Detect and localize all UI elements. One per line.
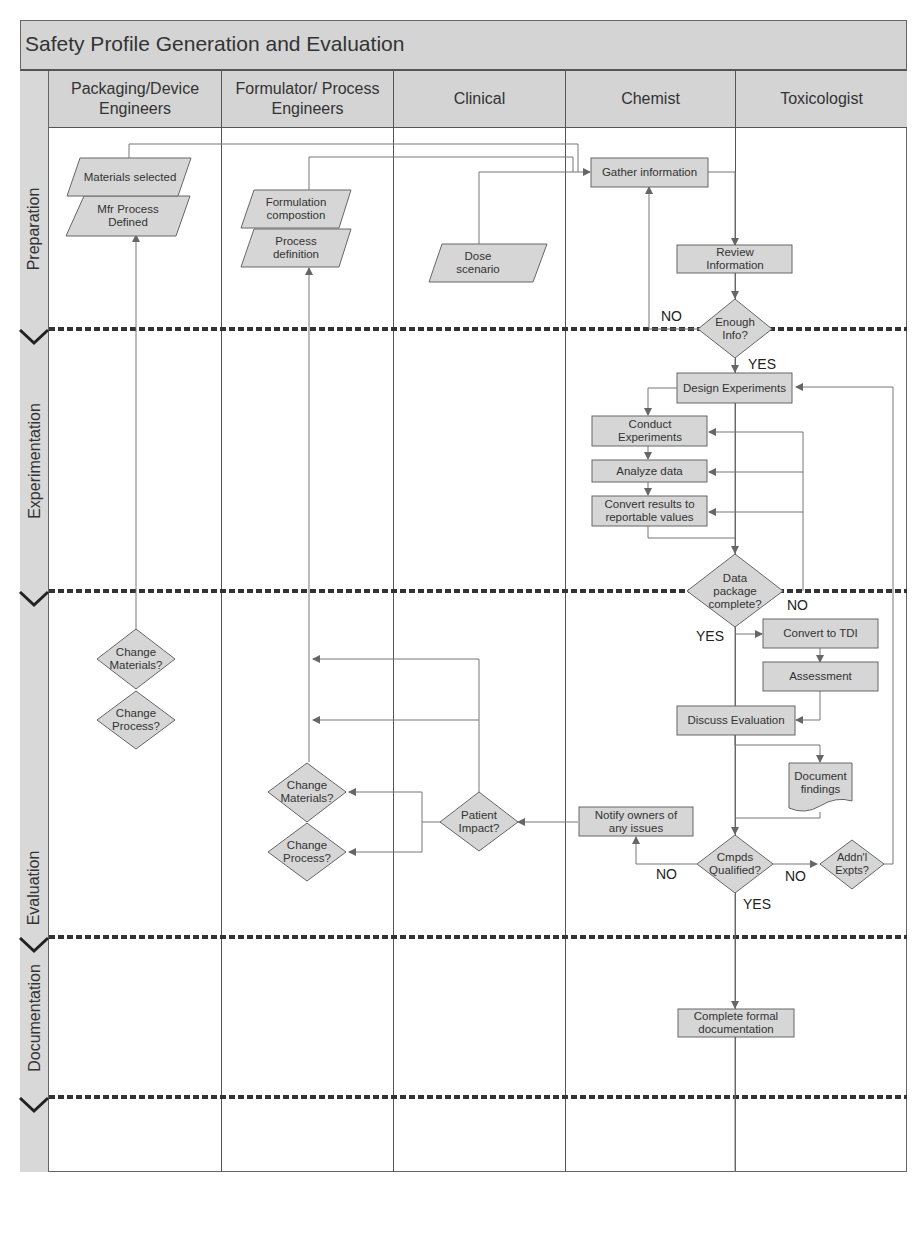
flowchart-canvas <box>0 0 920 1243</box>
formulation-shape <box>241 190 351 228</box>
data-package-shape <box>687 554 783 627</box>
change-materials-pkg-shape <box>97 629 175 689</box>
enough-shape <box>698 299 772 358</box>
change-process-pkg-shape <box>97 691 175 749</box>
edge-label-data-yes: YES <box>696 628 724 644</box>
edge-label-cmpds-no-left: NO <box>656 866 677 882</box>
edge-label-cmpds-no-right: NO <box>785 868 806 884</box>
edge-label-data-no: NO <box>787 597 808 613</box>
complete-doc-shape <box>678 1009 794 1037</box>
cmpds-shape <box>697 835 773 893</box>
convert-results-shape <box>592 496 707 526</box>
mfr-process-shape <box>66 196 190 236</box>
dose-shape <box>429 244 547 282</box>
change-materials-form-shape <box>268 763 346 822</box>
design-shape <box>677 373 792 403</box>
edge-label-enough-no: NO <box>661 308 682 324</box>
discuss-shape <box>677 706 795 735</box>
tdi-shape <box>763 619 878 648</box>
assessment-shape <box>763 662 878 691</box>
addnl-shape <box>820 840 884 889</box>
lane-dividers <box>222 128 736 1172</box>
patient-shape <box>440 792 518 851</box>
notify-shape <box>579 807 693 836</box>
process-def-shape <box>241 229 351 267</box>
materials-shape <box>67 158 191 196</box>
gather-shape <box>591 158 708 187</box>
review-shape <box>677 245 792 273</box>
phase-chevrons <box>20 330 48 1111</box>
change-process-form-shape <box>268 823 346 881</box>
conduct-shape <box>592 416 707 446</box>
document-shape <box>789 763 852 811</box>
edge-label-cmpds-yes: YES <box>743 896 771 912</box>
edge-label-enough-yes: YES <box>748 356 776 372</box>
analyze-shape <box>592 460 707 482</box>
